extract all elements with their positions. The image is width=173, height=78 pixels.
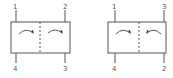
port-label: 4 bbox=[13, 65, 18, 73]
port-label: 3 bbox=[63, 65, 67, 73]
valve-diagrams: 1 2 4 3 1 3 4 2 bbox=[0, 0, 173, 78]
curved-arrow-icon bbox=[48, 30, 62, 33]
valve-symbol-left bbox=[11, 10, 70, 63]
port-label: 2 bbox=[63, 3, 67, 11]
port-label: 1 bbox=[13, 3, 17, 11]
valve-body bbox=[108, 22, 166, 53]
port-label: 2 bbox=[162, 65, 166, 73]
curved-arrow-icon bbox=[116, 30, 130, 34]
port-label: 3 bbox=[162, 3, 166, 11]
curved-arrow-icon bbox=[147, 30, 161, 34]
port-label: 4 bbox=[112, 65, 117, 73]
curved-arrow-icon bbox=[19, 30, 33, 34]
port-label: 1 bbox=[112, 3, 116, 11]
valve-symbol-right bbox=[108, 10, 166, 63]
